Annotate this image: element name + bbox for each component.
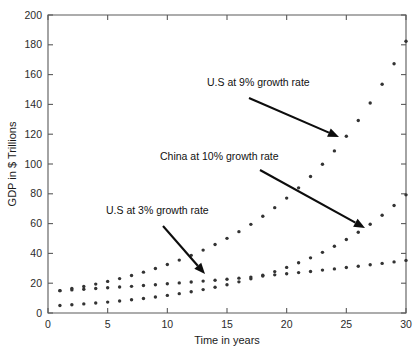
- data-point: [392, 62, 395, 65]
- y-tick-label: 100: [24, 158, 42, 170]
- data-point: [190, 280, 193, 283]
- data-point: [70, 287, 73, 290]
- data-point: [201, 248, 204, 251]
- data-point: [106, 280, 109, 283]
- data-point: [285, 272, 288, 275]
- data-point: [94, 282, 97, 285]
- data-point: [369, 101, 372, 104]
- data-point: [154, 267, 157, 270]
- data-point: [225, 237, 228, 240]
- data-point: [94, 301, 97, 304]
- data-point: [82, 285, 85, 288]
- data-point: [404, 259, 407, 262]
- data-point: [201, 279, 204, 282]
- y-tick-label: 120: [24, 128, 42, 140]
- data-point: [404, 193, 407, 196]
- data-point: [380, 262, 383, 265]
- data-point: [309, 256, 312, 259]
- data-point: [380, 83, 383, 86]
- x-axis-title: Time in years: [194, 334, 260, 346]
- annotation-arrow-2: [260, 170, 355, 223]
- data-point: [166, 294, 169, 297]
- data-point: [321, 251, 324, 254]
- data-point: [118, 285, 121, 288]
- plot-frame: [48, 15, 406, 313]
- plot-area: 020406080100120140160180200051015202530T…: [0, 0, 420, 352]
- data-point: [82, 302, 85, 305]
- data-point: [321, 163, 324, 166]
- data-point: [345, 266, 348, 269]
- data-point: [118, 299, 121, 302]
- y-tick-label: 40: [30, 247, 42, 259]
- data-point: [357, 119, 360, 122]
- x-tick-label: 25: [340, 318, 352, 330]
- data-point: [130, 274, 133, 277]
- y-tick-label: 20: [30, 277, 42, 289]
- x-tick-label: 5: [105, 318, 111, 330]
- data-point: [94, 287, 97, 290]
- data-point: [130, 285, 133, 288]
- gdp-growth-scatter-chart: 020406080100120140160180200051015202530T…: [0, 0, 420, 352]
- data-point: [273, 270, 276, 273]
- annotation-label-1: U.S at 9% growth rate: [207, 76, 310, 88]
- annotation-label-3: U.S at 3% growth rate: [106, 204, 209, 216]
- data-point: [380, 214, 383, 217]
- data-point: [297, 261, 300, 264]
- y-tick-label: 140: [24, 98, 42, 110]
- y-tick-label: 60: [30, 217, 42, 229]
- data-point: [106, 286, 109, 289]
- data-point: [225, 283, 228, 286]
- data-point: [285, 196, 288, 199]
- data-point: [130, 298, 133, 301]
- x-tick-label: 0: [45, 318, 51, 330]
- data-point: [249, 223, 252, 226]
- data-point: [142, 284, 145, 287]
- x-tick-label: 10: [161, 318, 173, 330]
- data-point: [261, 274, 264, 277]
- data-point: [201, 288, 204, 291]
- data-point: [154, 295, 157, 298]
- data-point: [178, 292, 181, 295]
- y-tick-label: 180: [24, 38, 42, 50]
- data-point: [142, 270, 145, 273]
- data-point: [213, 279, 216, 282]
- y-tick-label: 0: [36, 307, 42, 319]
- data-point: [154, 283, 157, 286]
- data-point: [190, 290, 193, 293]
- data-point: [369, 222, 372, 225]
- data-point: [333, 267, 336, 270]
- data-point: [225, 277, 228, 280]
- data-point: [333, 149, 336, 152]
- data-point: [309, 270, 312, 273]
- data-point: [213, 286, 216, 289]
- data-point: [357, 265, 360, 268]
- y-tick-label: 160: [24, 68, 42, 80]
- data-point: [273, 206, 276, 209]
- x-tick-label: 20: [281, 318, 293, 330]
- data-point: [273, 273, 276, 276]
- data-point: [285, 266, 288, 269]
- y-tick-label: 200: [24, 9, 42, 21]
- annotation-arrow-1: [249, 98, 329, 133]
- data-point: [309, 175, 312, 178]
- data-point: [321, 268, 324, 271]
- data-point: [237, 276, 240, 279]
- data-point: [333, 245, 336, 248]
- data-point: [404, 40, 407, 43]
- data-point: [178, 281, 181, 284]
- data-point: [297, 186, 300, 189]
- data-point: [106, 300, 109, 303]
- data-point: [392, 260, 395, 263]
- data-point: [261, 215, 264, 218]
- data-point: [178, 258, 181, 261]
- data-point: [166, 263, 169, 266]
- data-point: [70, 303, 73, 306]
- data-point: [237, 230, 240, 233]
- data-point: [369, 263, 372, 266]
- data-point: [166, 282, 169, 285]
- data-point: [297, 271, 300, 274]
- data-point: [237, 280, 240, 283]
- data-point: [392, 204, 395, 207]
- data-point: [118, 277, 121, 280]
- data-point: [58, 289, 61, 292]
